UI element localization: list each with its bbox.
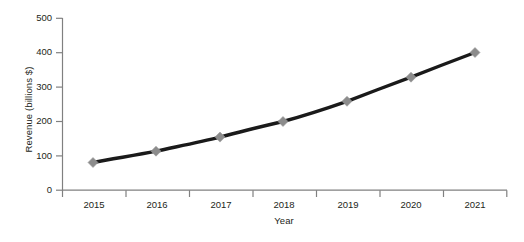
data-point-2021 bbox=[470, 48, 480, 58]
data-point-2017 bbox=[215, 132, 225, 142]
data-point-2016 bbox=[151, 146, 161, 156]
x-tick-label-2019: 2019 bbox=[316, 200, 380, 210]
x-tick-label-2015: 2015 bbox=[62, 200, 126, 210]
revenue-series-markers bbox=[88, 48, 480, 168]
x-tick-label-2016: 2016 bbox=[125, 200, 189, 210]
x-axis-title: Year bbox=[60, 215, 508, 226]
data-point-2015 bbox=[88, 158, 98, 168]
data-point-2018 bbox=[278, 117, 288, 127]
y-axis-title: Revenue (billions $) bbox=[23, 20, 34, 200]
x-tick-label-2017: 2017 bbox=[189, 200, 253, 210]
revenue-line-chart: 500 400 300 200 100 0 2015 2016 2017 201… bbox=[0, 0, 524, 242]
data-point-2020 bbox=[406, 72, 416, 82]
x-tick-label-2018: 2018 bbox=[252, 200, 316, 210]
revenue-series-line bbox=[93, 53, 475, 163]
x-tick-label-2020: 2020 bbox=[379, 200, 443, 210]
x-tick-label-2021: 2021 bbox=[443, 200, 507, 210]
x-axis-ticks bbox=[63, 190, 507, 197]
data-point-2019 bbox=[342, 96, 352, 106]
y-axis-ticks bbox=[56, 18, 63, 190]
